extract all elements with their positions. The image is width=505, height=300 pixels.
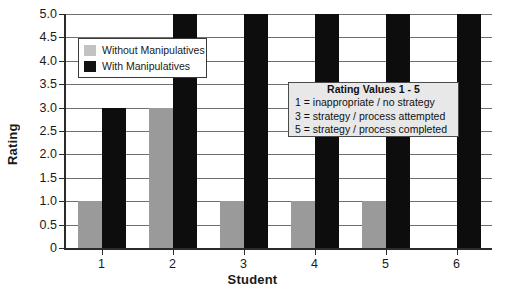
y-tick-label: 1.0 bbox=[40, 195, 57, 208]
gridline bbox=[66, 154, 492, 155]
y-tick-label: 5.0 bbox=[40, 8, 57, 21]
info-box-line: 1 = inappropriate / no strategy bbox=[295, 96, 452, 108]
rating-values-info-box: Rating Values 1 - 5 1 = inappropriate / … bbox=[288, 82, 459, 137]
y-tick-label: 0.5 bbox=[40, 218, 57, 231]
y-tick-mark bbox=[59, 131, 66, 132]
y-tick-mark bbox=[59, 61, 66, 62]
bar bbox=[102, 108, 126, 248]
legend-item-label: Without Manipulatives bbox=[102, 45, 205, 56]
y-tick-mark bbox=[59, 108, 66, 109]
x-axis-title: Student bbox=[0, 272, 505, 287]
y-tick-label: 4.5 bbox=[40, 31, 57, 44]
bar bbox=[362, 201, 386, 248]
bar bbox=[220, 201, 244, 248]
y-tick-mark bbox=[59, 248, 66, 249]
y-tick-label: 4.0 bbox=[40, 55, 57, 68]
y-tick-label: 2.0 bbox=[40, 148, 57, 161]
y-tick-mark bbox=[59, 178, 66, 179]
bar-chart: Rating 00.51.01.52.02.53.03.54.04.55.0 1… bbox=[0, 0, 505, 300]
info-box-line: 3 = strategy / process attempted bbox=[295, 110, 452, 122]
black-swatch-icon bbox=[84, 61, 96, 72]
y-tick-label: 0 bbox=[50, 242, 57, 255]
legend-item: Without Manipulatives bbox=[84, 44, 201, 57]
x-tick-label: 3 bbox=[240, 258, 247, 271]
y-tick-label: 3.0 bbox=[40, 101, 57, 114]
x-tick-label: 5 bbox=[382, 258, 389, 271]
y-tick-label: 3.5 bbox=[40, 78, 57, 91]
x-tick-mark bbox=[173, 248, 174, 255]
y-tick-mark bbox=[59, 37, 66, 38]
legend: Without Manipulatives With Manipulatives bbox=[78, 38, 207, 78]
y-tick-label: 1.5 bbox=[40, 172, 57, 185]
bar bbox=[291, 201, 315, 248]
y-axis-title: Rating bbox=[2, 104, 22, 184]
x-tick-label: 6 bbox=[453, 258, 460, 271]
x-tick-mark bbox=[315, 248, 316, 255]
y-tick-label: 2.5 bbox=[40, 125, 57, 138]
legend-item-label: With Manipulatives bbox=[102, 61, 190, 72]
y-tick-mark bbox=[59, 154, 66, 155]
y-tick-mark bbox=[59, 84, 66, 85]
info-box-line: 5 = strategy / process completed bbox=[295, 123, 452, 135]
x-tick-mark bbox=[457, 248, 458, 255]
x-tick-label: 1 bbox=[98, 258, 105, 271]
bar bbox=[78, 201, 102, 248]
x-tick-mark bbox=[244, 248, 245, 255]
x-tick-mark bbox=[102, 248, 103, 255]
gray-swatch-icon bbox=[84, 45, 96, 56]
gridline bbox=[66, 201, 492, 202]
bar bbox=[244, 14, 268, 248]
y-tick-mark bbox=[59, 201, 66, 202]
legend-item: With Manipulatives bbox=[84, 60, 201, 73]
bar bbox=[457, 14, 481, 248]
x-tick-label: 2 bbox=[169, 258, 176, 271]
gridline bbox=[66, 178, 492, 179]
gridline bbox=[66, 14, 492, 15]
y-tick-mark bbox=[59, 14, 66, 15]
x-tick-mark bbox=[386, 248, 387, 255]
info-box-title: Rating Values 1 - 5 bbox=[295, 83, 452, 95]
x-tick-label: 4 bbox=[311, 258, 318, 271]
y-tick-mark bbox=[59, 225, 66, 226]
bar bbox=[149, 108, 173, 248]
gridline bbox=[66, 225, 492, 226]
